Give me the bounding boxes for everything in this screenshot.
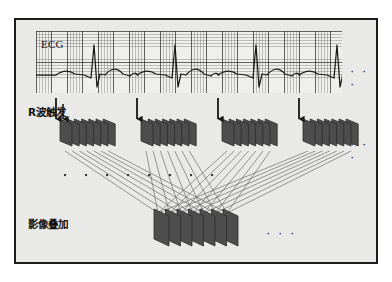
ecg-label: ECG (41, 38, 64, 50)
projection-ray (204, 151, 256, 213)
summation-continuation-ellipsis: · · · (266, 226, 296, 239)
row-dot (211, 174, 213, 176)
slab (325, 119, 337, 146)
projection-ray (160, 151, 181, 213)
image-summation-label: 影像叠加 (28, 216, 68, 231)
projection-ray (216, 151, 264, 213)
projection-ray (216, 151, 345, 213)
slab (222, 119, 234, 146)
projection-ray (153, 151, 169, 213)
projection-ray (87, 151, 193, 213)
projection-ray (170, 151, 316, 213)
slab (154, 209, 169, 246)
slab (236, 119, 248, 146)
projection-ray (72, 151, 169, 213)
figure-panel: ECG · · · R波触发 影像叠加 · · · · · · (14, 18, 378, 264)
slab (170, 119, 182, 146)
slab (251, 119, 263, 146)
slab (200, 209, 215, 246)
projection-ray (204, 151, 337, 213)
projection-rays (65, 151, 351, 213)
projection-ray (146, 151, 158, 213)
slab (60, 119, 72, 146)
slab (96, 119, 108, 146)
slab (223, 209, 238, 246)
projection-ray (181, 151, 241, 213)
projection-ray (175, 151, 204, 213)
slab (332, 119, 344, 146)
row-dot (148, 174, 150, 176)
slab (163, 119, 175, 146)
slab-stacks (60, 119, 358, 246)
row-dot (127, 174, 129, 176)
slab (141, 119, 153, 146)
slab (189, 209, 204, 246)
projection-ray (158, 151, 227, 213)
slab (310, 119, 322, 146)
slab (82, 119, 94, 146)
projection-ray (94, 151, 204, 213)
projection-ray (101, 151, 216, 213)
slab (74, 119, 86, 146)
projection-ray (65, 151, 158, 213)
slab (244, 119, 256, 146)
dot-row (64, 174, 213, 176)
row-dot (190, 174, 192, 176)
slab (317, 119, 329, 146)
slab (166, 209, 181, 246)
projection-ray (108, 151, 227, 213)
projection-ray (193, 151, 330, 213)
r-wave-trigger-label: R波触发 (28, 104, 66, 119)
slab (184, 119, 196, 146)
ecg-waveform (36, 31, 342, 93)
slab (229, 119, 241, 146)
slab (212, 209, 227, 246)
slab (177, 209, 192, 246)
row-dot (64, 174, 66, 176)
projection-ray (189, 151, 227, 213)
projection-ray (182, 151, 216, 213)
slab (258, 119, 270, 146)
slab (89, 119, 101, 146)
ecg-strip (36, 31, 342, 93)
slab (103, 119, 115, 146)
projection-ray (227, 151, 270, 213)
slab (67, 119, 79, 146)
trigger-arrows (56, 98, 299, 119)
slab-continuation-ellipsis: · · · (350, 137, 376, 163)
projection-ray (193, 151, 249, 213)
ecg-continuation-ellipsis: · · · (350, 64, 376, 90)
row-dot (169, 174, 171, 176)
row-dot (106, 174, 108, 176)
row-dot (85, 174, 87, 176)
projection-ray (227, 151, 351, 213)
slab (265, 119, 277, 146)
projection-ray (170, 151, 235, 213)
slab (155, 119, 167, 146)
slab (148, 119, 160, 146)
projection-ray (168, 151, 193, 213)
projection-ray (181, 151, 322, 213)
slab (177, 119, 189, 146)
projection-ray (79, 151, 181, 213)
projection-ray (158, 151, 308, 213)
slab (303, 119, 315, 146)
